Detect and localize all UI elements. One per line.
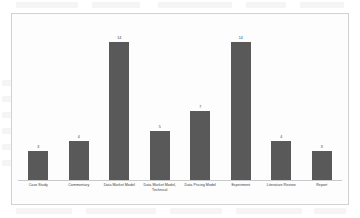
bar-value-label: 4	[78, 135, 80, 140]
plot-area: 3 4 14 5 7 14	[12, 14, 348, 204]
bar-value-label: 14	[117, 36, 121, 41]
x-tick-label-data-pricing-model: Data Pricing Model	[180, 183, 221, 188]
bar-item[interactable]: 14	[221, 14, 262, 180]
x-tick-label-literature-review: Literature Review	[261, 183, 302, 188]
bar-rect[interactable]	[150, 131, 170, 180]
bar-rect[interactable]	[109, 42, 129, 180]
x-axis-tick-labels: Case Study Commentary Data Market Model …	[18, 183, 342, 205]
bar-value-label: 4	[280, 135, 282, 140]
bar-value-label: 14	[239, 36, 243, 41]
bar-item[interactable]: 3	[18, 14, 59, 180]
bar-value-label: 3	[321, 145, 323, 150]
bar-series: 3 4 14 5 7 14	[18, 14, 342, 180]
x-tick-label-data-market-model-technical: Data Market Model, Technical	[140, 183, 181, 193]
x-tick-label-commentary: Commentary	[59, 183, 100, 188]
x-axis-line	[18, 180, 342, 181]
bar-item[interactable]: 4	[59, 14, 100, 180]
x-tick-label-data-market-model: Data Market Model	[99, 183, 140, 188]
x-tick-label-experiment: Experiment	[221, 183, 262, 188]
bar-rect[interactable]	[28, 151, 48, 180]
x-tick-label-report: Report	[302, 183, 343, 188]
bar-item[interactable]: 14	[99, 14, 140, 180]
bar-item[interactable]: 3	[302, 14, 343, 180]
bar-rect[interactable]	[231, 42, 251, 180]
bar-item[interactable]: 5	[140, 14, 181, 180]
bar-rect[interactable]	[312, 151, 332, 180]
x-tick-label-case-study: Case Study	[18, 183, 59, 188]
bar-rect[interactable]	[271, 141, 291, 180]
bar-item[interactable]: 4	[261, 14, 302, 180]
bar-value-label: 3	[37, 145, 39, 150]
bar-item[interactable]: 7	[180, 14, 221, 180]
bar-chart-figure: 3 4 14 5 7 14	[11, 13, 349, 205]
bar-value-label: 5	[159, 125, 161, 130]
bar-rect[interactable]	[190, 111, 210, 180]
bar-rect[interactable]	[69, 141, 89, 180]
bar-value-label: 7	[199, 105, 201, 110]
